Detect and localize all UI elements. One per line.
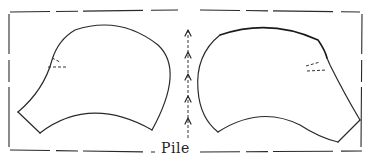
left-pattern-piece bbox=[18, 25, 170, 133]
pattern-diagram: Pile bbox=[0, 0, 373, 162]
pile-label: Pile bbox=[161, 140, 190, 156]
right-pattern-piece bbox=[198, 28, 360, 142]
grain-line-arrows bbox=[185, 30, 191, 138]
diagram-canvas bbox=[0, 0, 373, 162]
